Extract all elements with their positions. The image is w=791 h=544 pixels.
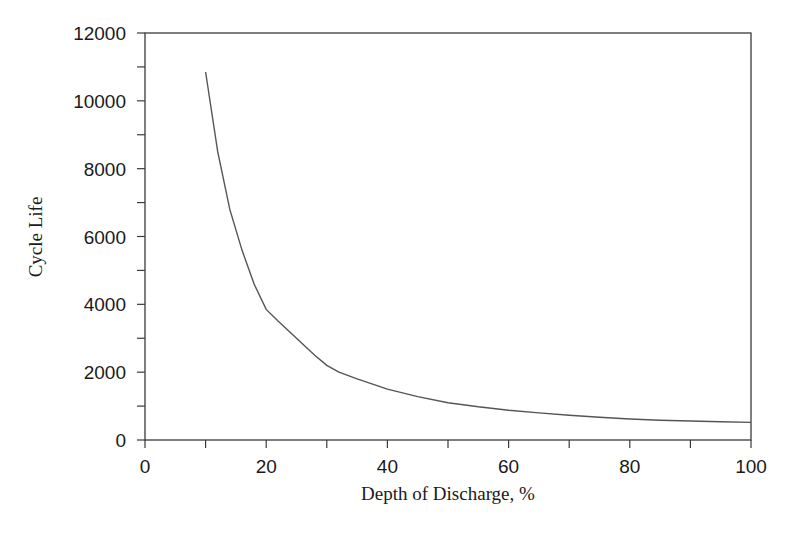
cycle-life-line xyxy=(206,72,751,422)
x-tick-label: 100 xyxy=(735,456,767,477)
x-axis-title: Depth of Discharge, % xyxy=(361,483,535,504)
x-tick-label: 80 xyxy=(619,456,640,477)
y-tick-label: 8000 xyxy=(84,159,126,180)
y-axis: 020004000600080001000012000 xyxy=(73,23,145,451)
y-tick-label: 12000 xyxy=(73,23,126,44)
x-tick-label: 20 xyxy=(256,456,277,477)
y-axis-title: Cycle Life xyxy=(25,197,46,278)
x-tick-label: 40 xyxy=(377,456,398,477)
x-tick-label: 0 xyxy=(140,456,151,477)
y-tick-label: 2000 xyxy=(84,362,126,383)
plot-area-border xyxy=(145,33,751,440)
y-tick-label: 10000 xyxy=(73,91,126,112)
x-tick-label: 60 xyxy=(498,456,519,477)
x-axis: 020406080100 xyxy=(140,440,767,477)
chart: 020004000600080001000012000 020406080100… xyxy=(0,0,791,544)
plot-frame xyxy=(145,33,751,440)
y-tick-label: 6000 xyxy=(84,227,126,248)
y-tick-label: 4000 xyxy=(84,294,126,315)
y-tick-label: 0 xyxy=(115,430,126,451)
